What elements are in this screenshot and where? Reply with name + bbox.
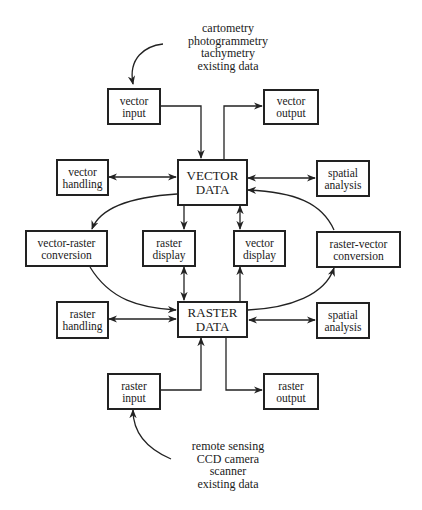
- box-label: handling: [62, 320, 102, 332]
- box-label: display: [243, 249, 276, 261]
- box-label: raster: [70, 308, 96, 320]
- raster-vector-conversion-box: raster-vector conversion: [316, 231, 401, 268]
- box-label: raster-vector: [330, 238, 388, 250]
- spatial-analysis-bottom-box: spatial analysis: [316, 302, 370, 339]
- box-label: analysis: [324, 321, 361, 333]
- box-label: display: [152, 249, 185, 261]
- box-label: raster: [156, 237, 182, 249]
- box-label: conversion: [41, 249, 91, 261]
- box-label: output: [276, 392, 305, 404]
- box-label: vector-raster: [38, 237, 96, 249]
- raster-input-box: raster input: [107, 373, 161, 410]
- box-label: VECTOR: [187, 169, 239, 183]
- raster-display-box: raster display: [142, 230, 196, 267]
- box-label: vector: [120, 95, 149, 107]
- arrow-raster-data-to-raster-output: [226, 338, 262, 390]
- source-existing-data: existing data: [168, 478, 288, 491]
- box-label: input: [122, 107, 146, 119]
- gis-data-flow-diagram: cartometry photogrammetry tachymetry exi…: [0, 0, 422, 510]
- arrow-sources-to-raster-input: [133, 410, 171, 459]
- box-label: DATA: [196, 320, 230, 334]
- box-label: DATA: [196, 183, 230, 197]
- arrow-raster-input-to-raster-data: [160, 338, 201, 390]
- box-label: spatial: [328, 167, 358, 179]
- vector-data-box: VECTOR DATA: [177, 159, 248, 206]
- source-remote-sensing: remote sensing: [168, 440, 288, 453]
- vector-raster-conversion-box: vector-raster conversion: [25, 230, 108, 267]
- source-existing-data: existing data: [168, 60, 288, 73]
- box-label: vector: [245, 237, 274, 249]
- source-cartometry: cartometry: [168, 22, 288, 35]
- arrow-vector-data-to-vector-raster: [92, 194, 177, 229]
- vector-sources-note: cartometry photogrammetry tachymetry exi…: [168, 22, 288, 72]
- source-tachymetry: tachymetry: [168, 47, 288, 60]
- raster-sources-note: remote sensing CCD camera scanner existi…: [168, 440, 288, 490]
- vector-display-box: vector display: [233, 230, 286, 267]
- box-label: conversion: [333, 250, 383, 262]
- box-label: output: [276, 107, 305, 119]
- box-label: spatial: [328, 309, 358, 321]
- arrow-sources-to-vector-input: [132, 44, 163, 84]
- raster-output-box: raster output: [263, 373, 319, 410]
- box-label: raster: [278, 380, 304, 392]
- box-label: vector: [277, 95, 306, 107]
- box-label: vector: [68, 166, 97, 178]
- box-label: input: [122, 392, 146, 404]
- box-label: RASTER: [188, 306, 238, 320]
- box-label: raster: [121, 380, 147, 392]
- source-scanner: scanner: [168, 465, 288, 478]
- vector-handling-box: vector handling: [56, 159, 109, 196]
- raster-data-box: RASTER DATA: [177, 301, 248, 338]
- box-label: handling: [62, 178, 102, 190]
- raster-handling-box: raster handling: [56, 301, 109, 339]
- spatial-analysis-top-box: spatial analysis: [316, 160, 370, 197]
- box-label: analysis: [324, 179, 361, 191]
- vector-output-box: vector output: [263, 89, 319, 125]
- vector-input-box: vector input: [107, 88, 161, 125]
- arrow-vector-data-to-vector-output: [224, 106, 262, 159]
- arrow-vector-input-to-vector-data: [160, 106, 201, 158]
